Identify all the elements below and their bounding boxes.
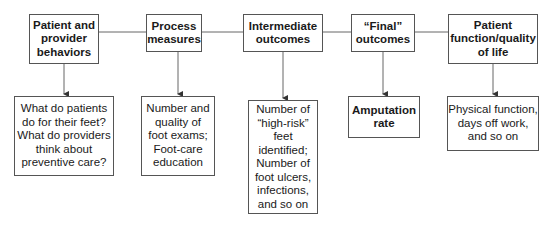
box-physical-function-detail: Physical function, days off work, and so…: [447, 96, 539, 151]
box-patient-function-quality-of-life: Patient function/quality of life: [448, 14, 538, 64]
box-final-outcomes: “Final” outcomes: [351, 14, 415, 52]
box-patient-provider-behaviors: Patient and provider behaviors: [29, 14, 99, 64]
box-patient-behaviors-detail: What do patients do for their feet? What…: [14, 96, 114, 176]
box-process-measures: Process measures: [146, 14, 202, 52]
box-amputation-rate: Amputation rate: [348, 96, 420, 138]
box-process-measures-detail: Number and quality of foot exams; Foot-c…: [141, 96, 215, 176]
box-intermediate-outcomes-detail: Number of “high-risk” feet identified; N…: [248, 100, 318, 214]
box-intermediate-outcomes: Intermediate outcomes: [243, 14, 323, 52]
